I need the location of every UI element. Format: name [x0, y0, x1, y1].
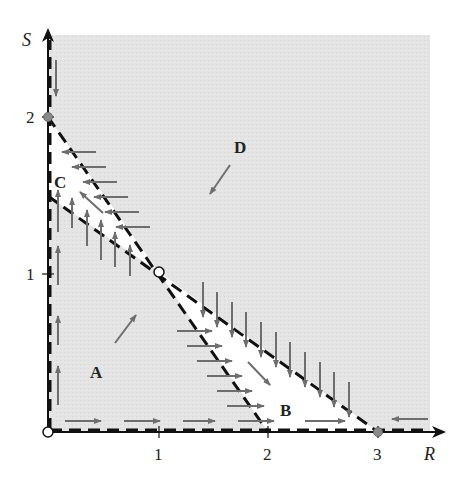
equilibrium-origin — [43, 427, 53, 437]
region-label-D: D — [234, 138, 246, 157]
x-tick-label-3: 3 — [373, 445, 382, 464]
region-label-B: B — [280, 401, 291, 420]
equilibrium-R3 — [374, 428, 383, 437]
x-tick-label-2: 2 — [263, 445, 272, 464]
y-tick-label-2: 2 — [26, 108, 35, 127]
region-label-A: A — [90, 363, 103, 382]
x-tick-label-1: 1 — [154, 445, 163, 464]
phase-plane-diagram: 1 2 3 1 2 R S A B C D — [0, 0, 468, 481]
equilibrium-coexistence — [154, 267, 164, 277]
y-tick-label-1: 1 — [26, 265, 35, 284]
x-axis-label: R — [423, 444, 435, 464]
equilibrium-S2 — [44, 113, 53, 122]
region-label-C: C — [54, 173, 66, 192]
y-axis-label: S — [22, 30, 31, 50]
